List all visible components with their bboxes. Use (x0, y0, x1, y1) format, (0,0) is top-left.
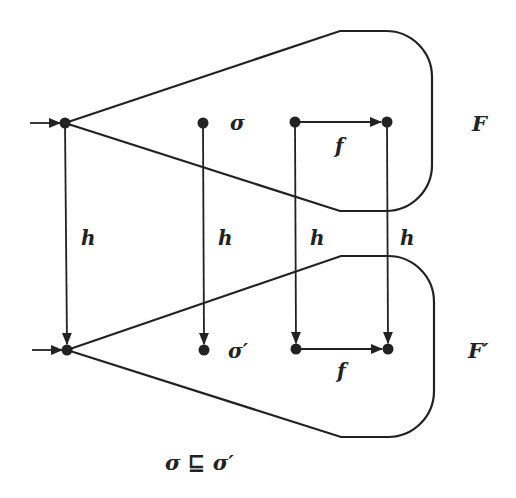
node-f-target-top (382, 117, 393, 128)
node-f-target-bottom (383, 344, 394, 355)
h-arrow-initial (65, 123, 67, 344)
node-sigma (198, 118, 209, 129)
node-initial-bottom (62, 345, 73, 356)
automaton-f-prime-outline (67, 256, 434, 437)
homomorphism-diagram: σ f F h h h h σ′ f F′ σ ⊑ σ′ (0, 0, 516, 498)
h-arrow-f-source (295, 122, 296, 343)
label-h-1: h (81, 226, 96, 250)
node-initial-top (60, 118, 71, 129)
label-h-3: h (310, 226, 325, 250)
label-F-prime: F′ (467, 338, 489, 363)
h-arrow-f-target (387, 122, 388, 343)
label-sigma-prime: σ′ (228, 339, 249, 363)
h-arrow-sigma (203, 123, 204, 344)
node-f-source-top (290, 117, 301, 128)
label-sigma: σ (230, 111, 245, 135)
label-h-4: h (400, 226, 415, 250)
node-f-source-bottom (291, 344, 302, 355)
label-F: F (471, 111, 489, 136)
automaton-f-outline (65, 31, 432, 211)
label-h-2: h (218, 226, 233, 250)
node-sigma-prime (199, 345, 210, 356)
label-f-top: f (333, 134, 347, 158)
caption: σ ⊑ σ′ (165, 450, 234, 475)
label-f-bottom: f (335, 359, 349, 383)
